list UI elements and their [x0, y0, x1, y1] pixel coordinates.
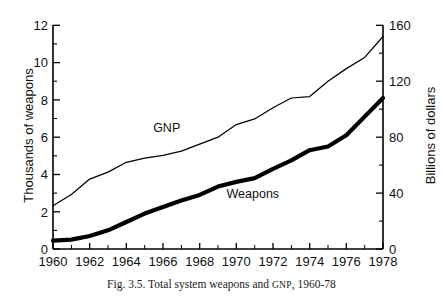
x-tick-label: 1964: [112, 254, 141, 269]
x-tick-label: 1962: [75, 254, 104, 269]
x-tick-label: 1974: [295, 254, 324, 269]
right-tick-label: 40: [389, 186, 403, 201]
right-axis-tick-labels: 160 120 80 40 0: [389, 18, 411, 257]
gnp-series-line: [53, 36, 383, 205]
left-tick-label: 2: [41, 205, 48, 220]
x-tick-label: 1972: [259, 254, 288, 269]
caption-gnp-smallcaps: GNP: [272, 280, 292, 290]
left-axis-title: Thousands of weapons: [21, 51, 36, 221]
figure-container: 12 10 8 6 4 2 0 160 120 80 40 0 1960 196…: [0, 0, 443, 299]
x-tick-label: 1978: [369, 254, 398, 269]
right-tick-label: 160: [389, 18, 411, 33]
right-tick-label: 80: [389, 130, 403, 145]
gnp-series-label: GNP: [153, 121, 180, 135]
left-tick-label: 10: [34, 55, 48, 70]
caption-prefix: Fig. 3.5. Total system weapons and: [107, 278, 272, 290]
x-axis-ticks: [53, 243, 383, 249]
weapons-series-label: Weapons: [227, 187, 280, 201]
left-axis-tick-labels: 12 10 8 6 4 2 0: [34, 18, 48, 257]
x-tick-label: 1976: [332, 254, 361, 269]
x-tick-label: 1960: [39, 254, 68, 269]
right-axis-title: Billions of dollars: [423, 51, 438, 221]
left-axis-ticks: [53, 25, 60, 249]
left-tick-label: 6: [41, 130, 48, 145]
left-tick-label: 12: [34, 18, 48, 33]
left-tick-label: 8: [41, 93, 48, 108]
caption-suffix: , 1960-78: [292, 278, 336, 290]
figure-caption: Fig. 3.5. Total system weapons and GNP, …: [0, 278, 443, 290]
x-tick-label: 1968: [185, 254, 214, 269]
x-tick-label: 1970: [222, 254, 251, 269]
x-axis-tick-labels: 1960 1962 1964 1966 1968 1970 1972 1974 …: [39, 254, 398, 269]
chart-plot-area: 12 10 8 6 4 2 0 160 120 80 40 0 1960 196…: [0, 0, 443, 299]
right-tick-label: 120: [389, 74, 411, 89]
left-tick-label: 4: [41, 167, 48, 182]
x-tick-label: 1966: [149, 254, 178, 269]
right-axis-ticks: [376, 25, 383, 249]
weapons-series-line: [53, 98, 383, 241]
